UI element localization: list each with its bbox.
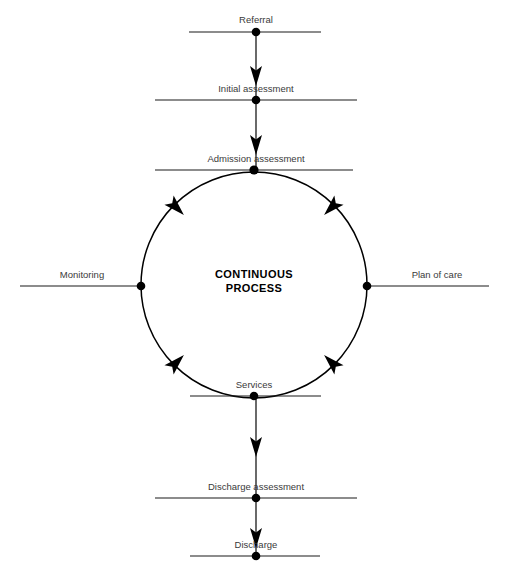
- cycle-arrowhead-upper-left: [164, 195, 188, 219]
- node-dot-discharge-assessment[interactable]: [252, 494, 261, 503]
- label-discharge: Discharge: [235, 539, 278, 550]
- node-dot-referral[interactable]: [252, 28, 261, 37]
- label-initial-assessment: Initial assessment: [218, 83, 294, 94]
- node-dot-services[interactable]: [250, 392, 259, 401]
- node-dot-admission-assessment[interactable]: [249, 165, 258, 174]
- cycle-arrowhead-lower-right: [320, 351, 344, 375]
- flow-diagram-canvas: Referral Initial assessment Admission as…: [0, 0, 508, 573]
- node-bars-group: [20, 32, 489, 556]
- node-dot-initial-assessment[interactable]: [252, 96, 261, 105]
- label-admission-assessment: Admission assessment: [207, 153, 305, 164]
- node-dot-discharge[interactable]: [252, 552, 261, 561]
- node-dot-plan-of-care[interactable]: [363, 282, 372, 291]
- cycle-arrowhead-lower-left: [164, 351, 188, 375]
- label-referral: Referral: [239, 14, 273, 25]
- center-label-line-2: PROCESS: [226, 282, 283, 294]
- label-discharge-assessment: Discharge assessment: [208, 481, 304, 492]
- center-label-line-1: CONTINUOUS: [215, 268, 293, 280]
- node-dot-monitoring[interactable]: [137, 282, 146, 291]
- center-text-group: CONTINUOUS PROCESS: [215, 268, 293, 294]
- process-flow-diagram: Referral Initial assessment Admission as…: [0, 0, 508, 573]
- label-plan-of-care: Plan of care: [412, 269, 463, 280]
- cycle-arrowhead-upper-right: [320, 195, 344, 219]
- vertical-connectors-group: [250, 32, 262, 556]
- label-monitoring: Monitoring: [60, 269, 104, 280]
- label-services: Services: [236, 379, 273, 390]
